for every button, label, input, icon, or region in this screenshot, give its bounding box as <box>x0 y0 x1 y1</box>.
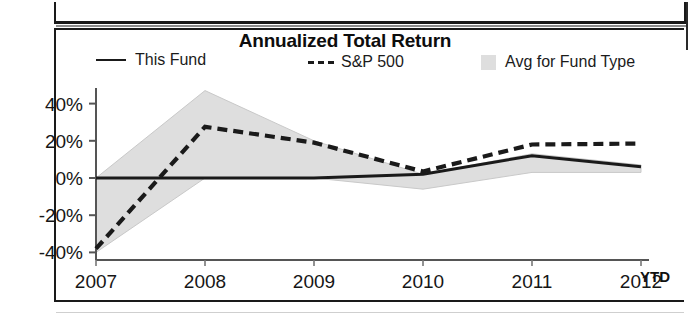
svg-text:2010: 2010 <box>402 271 444 292</box>
svg-text:40%: 40% <box>45 94 83 115</box>
x-axis-ytd-label: YTD <box>640 268 670 285</box>
scan-right-clip <box>684 28 690 302</box>
svg-text:2008: 2008 <box>184 271 226 292</box>
chart-svg: 40%20%0%-20%-40% 20072008200920102011201… <box>0 0 690 319</box>
scanned-page: Annualized Total Return This Fund S&P 50… <box>0 0 690 319</box>
plot-area: 40%20%0%-20%-40% 20072008200920102011201… <box>0 0 690 319</box>
svg-text:-20%: -20% <box>39 205 83 226</box>
scan-right-edge <box>686 2 688 50</box>
avg-fund-type-band <box>96 91 641 253</box>
scan-bottom-smudge <box>56 312 684 313</box>
svg-text:0%: 0% <box>56 168 84 189</box>
x-axis-tick-labels: 200720082009201020112012 <box>75 271 662 292</box>
svg-text:-40%: -40% <box>39 242 83 263</box>
svg-text:2009: 2009 <box>293 271 335 292</box>
svg-text:2011: 2011 <box>512 271 553 292</box>
svg-text:2007: 2007 <box>75 271 117 292</box>
svg-text:20%: 20% <box>45 131 83 152</box>
y-axis-tick-labels: 40%20%0%-20%-40% <box>39 94 83 264</box>
